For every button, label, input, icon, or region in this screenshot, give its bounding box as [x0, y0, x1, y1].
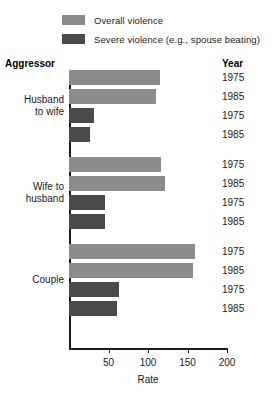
year-label: 1975 — [222, 72, 244, 83]
x-tick — [148, 348, 149, 353]
x-tick-label: 100 — [140, 357, 157, 368]
x-tick-label: 200 — [219, 357, 236, 368]
year-label: 1975 — [222, 246, 244, 257]
bar — [69, 301, 117, 316]
plot-area — [69, 70, 227, 348]
legend-swatch-overall-violence — [62, 15, 85, 25]
bar — [69, 70, 160, 85]
bar — [69, 176, 165, 191]
x-tick-label: 50 — [103, 357, 114, 368]
x-tick — [188, 348, 189, 353]
legend-label-overall-violence: Overall violence — [94, 15, 163, 26]
category-label: Wife to husband — [26, 181, 64, 206]
category-label: Couple — [32, 274, 64, 287]
bar — [69, 108, 94, 123]
bar-row — [69, 214, 105, 229]
x-tick — [227, 348, 228, 353]
year-label: 1975 — [222, 197, 244, 208]
year-label: 1985 — [222, 216, 244, 227]
x-tick — [109, 348, 110, 353]
bar-row — [69, 263, 193, 278]
year-label: 1985 — [222, 178, 244, 189]
chart-legend: Overall violence Severe violence (e.g., … — [62, 12, 260, 50]
column-header-aggressor: Aggressor — [5, 58, 55, 69]
bar — [69, 244, 195, 259]
year-label: 1985 — [222, 303, 244, 314]
bar — [69, 127, 90, 142]
legend-item-overall-violence: Overall violence — [62, 12, 260, 28]
bar — [69, 214, 105, 229]
bar — [69, 263, 193, 278]
bar-row — [69, 176, 165, 191]
bar-row — [69, 282, 119, 297]
bar — [69, 195, 105, 210]
legend-item-severe-violence: Severe violence (e.g., spouse beating) — [62, 31, 260, 47]
bar-row — [69, 244, 195, 259]
bar — [69, 89, 156, 104]
legend-swatch-severe-violence — [62, 34, 85, 44]
year-label: 1975 — [222, 284, 244, 295]
category-label: Husband to wife — [24, 94, 64, 119]
x-tick-label: 150 — [179, 357, 196, 368]
bar-row — [69, 108, 94, 123]
bar-row — [69, 70, 160, 85]
year-label: 1975 — [222, 159, 244, 170]
bar-row — [69, 195, 105, 210]
bar-row — [69, 89, 156, 104]
year-label: 1985 — [222, 129, 244, 140]
bar — [69, 157, 161, 172]
year-label: 1975 — [222, 110, 244, 121]
bar-row — [69, 127, 90, 142]
x-axis-title: Rate — [69, 374, 227, 385]
violence-rate-bar-chart: Overall violence Severe violence (e.g., … — [0, 0, 276, 403]
year-label: 1985 — [222, 91, 244, 102]
column-header-year: Year — [222, 58, 243, 69]
legend-label-severe-violence: Severe violence (e.g., spouse beating) — [94, 34, 260, 45]
bar-row — [69, 157, 161, 172]
bar-row — [69, 301, 117, 316]
bar — [69, 282, 119, 297]
year-label: 1985 — [222, 265, 244, 276]
